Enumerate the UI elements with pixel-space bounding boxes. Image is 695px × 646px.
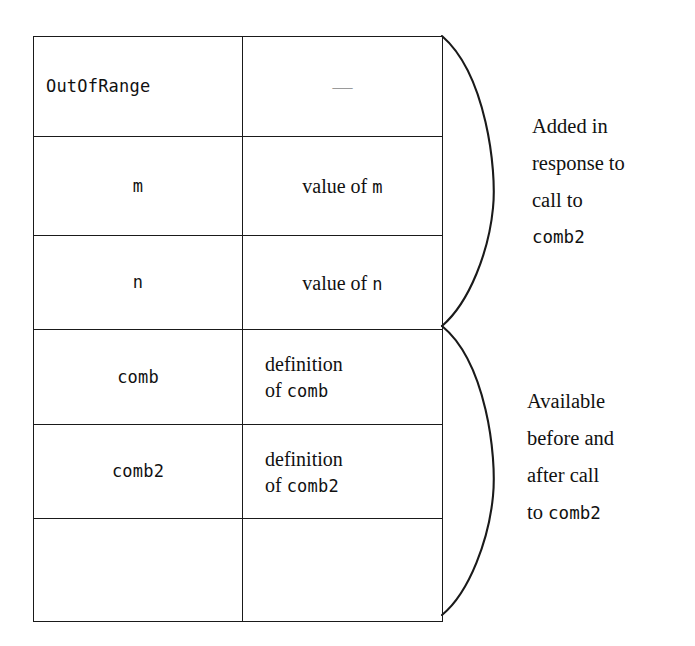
definition-line-2: of comb [259, 377, 432, 403]
table-row: comb definition of comb [34, 330, 443, 425]
environment-frame-table: OutOfRange — m value of m n value of n c… [33, 36, 443, 622]
table-row: comb2 definition of comb2 [34, 425, 443, 519]
cell-name-comb: comb [34, 330, 243, 425]
annotation-line: before and [527, 420, 614, 457]
em-dash-icon: — [333, 76, 353, 98]
table-row: m value of m [34, 137, 443, 236]
annotation-line: Available [527, 383, 614, 420]
annotation-line-code: comb2 [532, 219, 625, 256]
definition-line-1: definition [259, 351, 432, 377]
upper-lens-brace-inner [442, 36, 450, 326]
value-of-label: value of [302, 175, 372, 197]
cell-value-blank [243, 519, 443, 622]
cell-value-n: value of n [243, 236, 443, 330]
cell-value-comb2: definition of comb2 [243, 425, 443, 519]
cell-name-m: m [34, 137, 243, 236]
annotation-line: response to [532, 145, 625, 182]
annotation-line: after call [527, 457, 614, 494]
cell-value-outofrange: — [243, 37, 443, 137]
annotation-line: to comb2 [527, 494, 614, 532]
definition-line-2: of comb2 [259, 472, 432, 498]
annotation-to-code: comb2 [548, 503, 601, 523]
value-of-code: n [372, 274, 382, 294]
upper-lens-brace [442, 36, 494, 326]
annotation-available-before-after: Available before and after call to comb2 [527, 383, 614, 532]
lower-lens-brace [442, 326, 494, 615]
cell-value-m: value of m [243, 137, 443, 236]
annotation-line: Added in [532, 108, 625, 145]
diagram-canvas: OutOfRange — m value of m n value of n c… [0, 0, 695, 646]
of-code: comb [287, 381, 329, 401]
annotation-to-label: to [527, 501, 548, 523]
annotation-added-in-response: Added in response to call to comb2 [532, 108, 625, 256]
cell-name-n: n [34, 236, 243, 330]
value-of-label: value of [302, 272, 372, 294]
cell-name-outofrange: OutOfRange [34, 37, 243, 137]
of-code: comb2 [287, 476, 339, 496]
cell-value-comb: definition of comb [243, 330, 443, 425]
table-row [34, 519, 443, 622]
value-of-code: m [372, 177, 382, 197]
table-row: n value of n [34, 236, 443, 330]
of-label: of [265, 474, 287, 496]
cell-name-blank [34, 519, 243, 622]
cell-name-comb2: comb2 [34, 425, 243, 519]
annotation-line: call to [532, 182, 625, 219]
definition-line-1: definition [259, 446, 432, 472]
table-row: OutOfRange — [34, 37, 443, 137]
of-label: of [265, 379, 287, 401]
